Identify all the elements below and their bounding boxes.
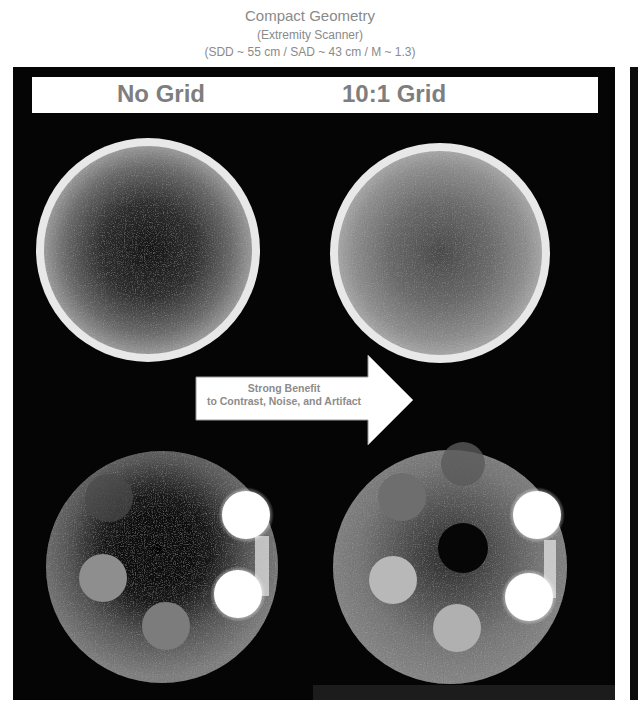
uniform-phantom-no-grid — [36, 138, 260, 362]
uniform-phantom-grid — [330, 143, 550, 363]
insert-phantom-grid — [333, 442, 567, 684]
arrow-caption: Strong Benefit to Contrast, Noise, and A… — [196, 382, 372, 408]
arrow-caption-line-1: Strong Benefit — [196, 382, 372, 395]
label-no-grid: No Grid — [117, 80, 205, 108]
label-grid: 10:1 Grid — [342, 80, 446, 108]
arrow-caption-line-2: to Contrast, Noise, and Artifact — [196, 395, 372, 408]
condition-label-bar: No Grid 10:1 Grid — [32, 77, 598, 113]
insert-phantom-no-grid — [46, 451, 278, 683]
